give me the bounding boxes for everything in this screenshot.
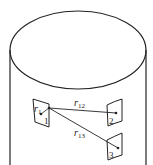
- label-r1: r1: [34, 103, 42, 116]
- cylinder: [10, 11, 146, 165]
- label-r12: r12: [74, 97, 85, 110]
- patch-1: r1 1: [33, 99, 50, 127]
- patch-3-label: 3: [109, 150, 114, 160]
- cylinder-top-ellipse: [10, 11, 146, 89]
- label-r13: r13: [74, 127, 85, 140]
- patch-1-label: 1: [44, 116, 49, 126]
- patch-2-label: 2: [109, 116, 114, 126]
- patch-3: 3: [107, 133, 122, 160]
- vector-r1: [41, 108, 49, 114]
- cylinder-diagram: r1 1 2 3 r12 r13: [0, 0, 153, 165]
